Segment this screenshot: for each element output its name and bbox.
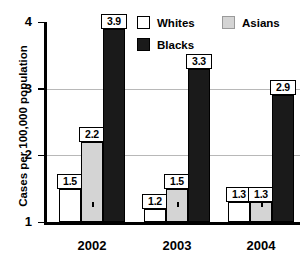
legend-item-blacks: Blacks	[137, 38, 194, 51]
x-axis-label-2004: 2004	[231, 238, 291, 253]
bar-value-label-2004-blacks: 2.9	[270, 80, 296, 95]
y-tick-label-1: 1	[10, 215, 32, 228]
bar-value-label-2002-blacks: 3.9	[101, 14, 127, 29]
x-tick-mark-2004	[261, 202, 263, 207]
y-tick-mark-2	[38, 155, 44, 157]
bar-2003-blacks	[188, 69, 210, 222]
bar-2002-blacks	[103, 29, 125, 222]
bar-2003-whites	[144, 209, 166, 222]
legend-swatch-whites-icon	[137, 16, 150, 29]
bar-2002-whites	[59, 189, 81, 222]
plot-area: 1.52.23.91.21.53.31.31.32.9	[44, 22, 300, 222]
x-tick-mark-2002	[92, 202, 94, 207]
y-tick-label-3: 3	[10, 82, 32, 95]
legend-swatch-asians-icon	[222, 16, 235, 29]
bar-value-label-2002-asians: 2.2	[79, 127, 105, 142]
y-axis-line	[44, 22, 47, 222]
legend-swatch-blacks-icon	[137, 38, 150, 51]
y-tick-mark-1	[38, 222, 44, 224]
legend-item-asians: Asians	[222, 16, 280, 29]
legend-label-asians: Asians	[242, 17, 280, 29]
bar-2004-whites	[228, 202, 250, 222]
legend-label-whites: Whites	[157, 17, 195, 29]
x-tick-mark-2003	[177, 202, 179, 207]
bar-value-label-2003-blacks: 3.3	[186, 54, 212, 69]
x-axis-label-2002: 2002	[62, 238, 122, 253]
gridline-3	[44, 89, 300, 90]
legend-label-blacks: Blacks	[157, 39, 194, 51]
bar-2004-blacks	[272, 95, 294, 222]
y-axis-title: Cases per 100,000 population	[17, 31, 29, 221]
x-axis-label-2003: 2003	[147, 238, 207, 253]
bar-value-label-2003-whites: 1.2	[142, 194, 168, 209]
bar-value-label-2004-asians: 1.3	[248, 187, 274, 202]
x-axis-line	[44, 222, 300, 225]
bar-value-label-2003-asians: 1.5	[164, 174, 190, 189]
legend-item-whites: Whites	[137, 16, 195, 29]
bar-value-label-2002-whites: 1.5	[57, 174, 83, 189]
bar-chart: Cases per 100,000 population 4321 1.52.2…	[0, 0, 308, 269]
y-tick-label-4: 4	[10, 15, 32, 28]
y-tick-label-2: 2	[10, 148, 32, 161]
y-tick-mark-4	[38, 22, 44, 24]
y-tick-mark-3	[38, 88, 44, 90]
bar-2002-asians	[81, 142, 103, 222]
